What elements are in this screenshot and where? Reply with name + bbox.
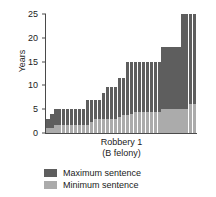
bar-segment-maximum-38 (193, 14, 196, 104)
legend-item-maximum-sentence: Maximum sentence (44, 167, 204, 178)
legend-label: Maximum sentence (63, 168, 141, 178)
bar-segment-minimum-38 (193, 104, 196, 133)
legend-label: Minimum sentence (63, 180, 139, 190)
y-tick-label-5: 5 (33, 105, 38, 113)
x-axis-label-line2: (B felony) (46, 148, 197, 159)
y-tick-label-15: 15 (28, 58, 38, 66)
y-tick-label-10: 10 (28, 81, 38, 89)
x-axis-label: Robbery 1 (B felony) (46, 137, 197, 159)
bar-38 (193, 14, 197, 133)
x-axis-spine (45, 133, 197, 134)
bar-plot-area (46, 14, 197, 133)
chart-figure: Years 0510152025 Robbery 1 (B felony) Ma… (0, 0, 216, 197)
legend-swatch-icon-minimum (44, 181, 57, 189)
y-tick-label-0: 0 (33, 129, 38, 137)
y-tick-label-20: 20 (28, 34, 38, 42)
bar-stack-38 (193, 14, 196, 133)
legend-swatch-icon-maximum (44, 169, 57, 177)
y-axis-ticks: 0510152025 (0, 0, 46, 197)
chart-legend: Maximum sentenceMinimum sentence (44, 167, 204, 191)
x-axis-label-line1: Robbery 1 (101, 137, 143, 147)
legend-item-minimum-sentence: Minimum sentence (44, 179, 204, 190)
y-tick-label-25: 25 (28, 10, 38, 18)
